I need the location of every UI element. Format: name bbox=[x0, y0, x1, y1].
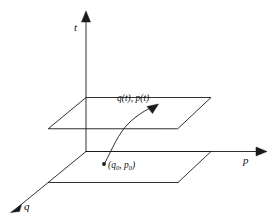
initial-point-label: (q0, p0) bbox=[108, 161, 135, 171]
trajectory-path bbox=[105, 107, 154, 164]
lower-plane-right-edge bbox=[178, 152, 211, 183]
p-axis-arrowhead bbox=[256, 147, 267, 156]
initial-label-p: p bbox=[124, 160, 129, 170]
p-axis bbox=[86, 147, 267, 156]
p-axis-label: p bbox=[243, 155, 249, 166]
trajectory-curve bbox=[102, 104, 158, 166]
t-axis bbox=[82, 11, 91, 152]
t-axis-arrowhead bbox=[82, 11, 91, 22]
trajectory-end-label: q(t), p(t) bbox=[117, 94, 149, 104]
q-axis-label: q bbox=[24, 201, 30, 212]
q-axis bbox=[11, 152, 87, 213]
initial-label-close-paren: ) bbox=[132, 160, 135, 170]
phase-space-figure: t p q q(t), p(t) (q0, p0) bbox=[0, 0, 279, 222]
t-axis-label: t bbox=[74, 22, 77, 33]
initial-label-q-subscript: 0 bbox=[116, 164, 119, 171]
trajectory-arrowhead bbox=[147, 104, 159, 114]
figure-canvas bbox=[0, 0, 279, 222]
q-axis-arrowhead bbox=[11, 205, 22, 213]
initial-label-p-subscript: 0 bbox=[129, 164, 132, 171]
